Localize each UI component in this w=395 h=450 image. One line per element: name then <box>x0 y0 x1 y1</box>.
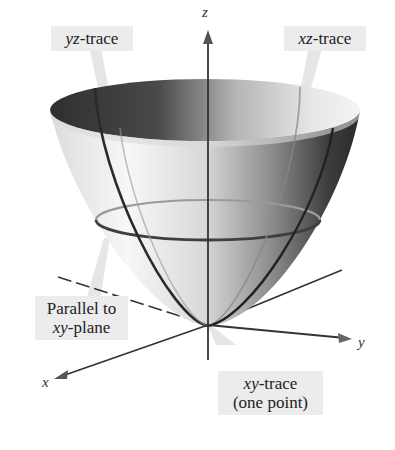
y-axis-arrow <box>338 333 352 343</box>
callout-yz-trace: yz-trace <box>51 26 133 51</box>
callout-xy-line2: (one point) <box>225 393 316 412</box>
callout-parallel-line2: xy-plane <box>42 318 121 337</box>
callout-xy-italic: xy <box>244 374 259 393</box>
callout-yz-text: -trace <box>80 29 119 48</box>
callout-xz-trace: xz-trace <box>284 26 366 51</box>
callout-yz-italic: yz <box>66 29 80 48</box>
callout-pointer-parallel <box>86 238 110 300</box>
callout-xz-text: -trace <box>313 29 352 48</box>
callout-xz-italic: xz <box>299 29 313 48</box>
callout-pointer-xy <box>208 326 236 345</box>
callout-xy-line1: xy-trace <box>225 374 316 393</box>
paraboloid-figure <box>0 0 395 450</box>
z-axis-label: z <box>202 4 208 21</box>
callout-parallel-line1: Parallel to <box>42 299 121 318</box>
y-axis-label: y <box>358 334 365 351</box>
callout-xy-text: -trace <box>259 374 298 393</box>
callout-xy-trace: xy-trace (one point) <box>218 371 323 415</box>
y-axis <box>208 325 345 338</box>
callout-parallel-xy-plane: Parallel to xy-plane <box>35 296 128 340</box>
z-axis-arrow <box>203 30 213 44</box>
x-axis-label: x <box>42 374 49 391</box>
callout-parallel-italic: xy <box>53 318 68 337</box>
x-axis-arrow <box>54 370 68 379</box>
callout-parallel-text: -plane <box>68 318 110 337</box>
